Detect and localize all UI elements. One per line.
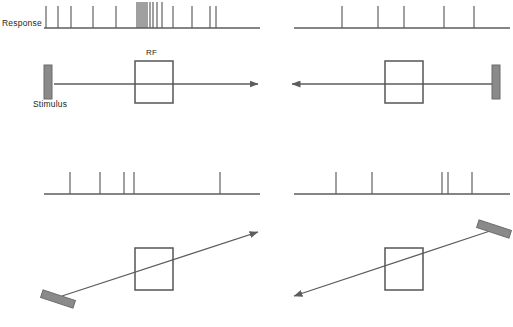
panels-root [41, 2, 512, 308]
figure-canvas: Response Stimulus RF [0, 0, 513, 327]
stimulus-bar [492, 65, 500, 99]
spike-train [342, 6, 474, 28]
stimulus-bar [44, 65, 52, 99]
panel-bottom-left [41, 172, 260, 308]
receptive-field-box [135, 248, 173, 290]
neural-response-figure [0, 0, 513, 327]
response-label: Response [2, 18, 42, 28]
stimulus-label: Stimulus [33, 99, 67, 109]
spike-train [336, 172, 472, 194]
receptive-field-box [385, 248, 423, 290]
motion-arrow [62, 232, 258, 296]
spike-train [70, 172, 220, 194]
panel-top-right [292, 6, 510, 103]
stimulus-bar [477, 220, 512, 238]
spike-train [46, 2, 216, 28]
motion-arrow [294, 231, 490, 296]
receptive-field-box [385, 61, 423, 103]
panel-bottom-right [294, 172, 511, 296]
rf-label: RF [146, 48, 157, 57]
receptive-field-box [135, 61, 173, 103]
